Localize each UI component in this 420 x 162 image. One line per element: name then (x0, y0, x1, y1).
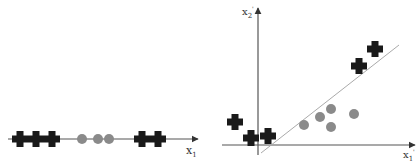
cross-marker-icon (243, 130, 259, 146)
diagram-canvas: x1 x2' x1' (0, 0, 420, 162)
cross-marker-icon (134, 131, 150, 147)
separator-line (261, 45, 399, 153)
circle-marker-icon (93, 134, 103, 144)
circle-marker-icon (326, 104, 336, 114)
cross-marker-icon (12, 131, 28, 147)
cross-marker-icon (44, 131, 60, 147)
circle-marker-icon (104, 134, 114, 144)
cross-marker-icon (260, 128, 276, 144)
right-y-axis-label: x2' (242, 5, 254, 20)
circle-marker-icon (315, 112, 325, 122)
left-plot: x1 (8, 131, 198, 159)
circle-marker-icon (349, 109, 359, 119)
cross-marker-icon (28, 131, 44, 147)
cross-marker-icon (150, 131, 166, 147)
circle-marker-icon (299, 120, 309, 130)
cross-marker-icon (227, 114, 243, 130)
cross-marker-icon (367, 41, 383, 57)
right-points (227, 41, 383, 146)
circle-marker-icon (77, 134, 87, 144)
circle-marker-icon (326, 122, 336, 132)
right-plot: x2' x1' (222, 5, 415, 162)
left-x-axis-label: x1 (186, 144, 197, 159)
right-x-axis-label: x1' (403, 148, 415, 162)
